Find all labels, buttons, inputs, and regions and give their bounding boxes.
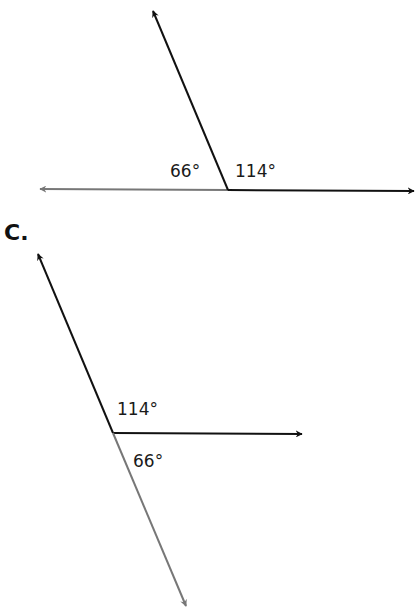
ray-right [228,190,414,191]
angle-label-66: 66° [133,451,163,471]
figure-c: 114° 66° [38,254,302,606]
ray-up-left [38,254,113,433]
angle-label-114: 114° [117,399,158,419]
figure-top: 66° 114° [40,11,414,191]
angle-label-114: 114° [235,161,276,181]
ray-right [113,433,302,434]
part-label-c: C. [4,220,29,245]
angle-diagrams: 66° 114° C. 114° 66° [0,0,417,609]
ray-left [40,189,228,190]
angle-label-66: 66° [170,161,200,181]
